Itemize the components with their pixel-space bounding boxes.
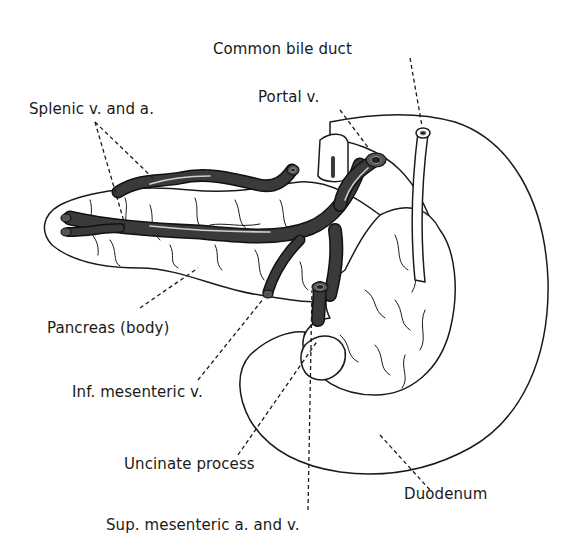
- label-common-bile-duct: Common bile duct: [213, 40, 352, 58]
- pancreas-diagram: [0, 0, 574, 552]
- label-inf-mesenteric: Inf. mesenteric v.: [72, 383, 203, 401]
- label-duodenum: Duodenum: [404, 485, 487, 503]
- vessel-stump: [318, 134, 348, 181]
- splenic-artery: [118, 165, 299, 192]
- label-uncinate: Uncinate process: [124, 455, 255, 473]
- label-splenic: Splenic v. and a.: [29, 100, 154, 118]
- label-sup-mesenteric: Sup. mesenteric a. and v.: [106, 516, 300, 534]
- leader-pancreas-body: [140, 268, 198, 308]
- sup-mesenteric-artery: [312, 282, 328, 320]
- label-portal-vein: Portal v.: [258, 88, 319, 106]
- label-pancreas-body: Pancreas (body): [47, 319, 169, 337]
